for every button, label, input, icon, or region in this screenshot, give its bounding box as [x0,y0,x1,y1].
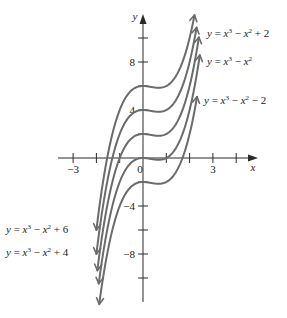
x-tick-label: 0 [137,163,143,175]
curves [94,15,203,304]
axes: −30384−4−8yx [58,10,258,302]
label-curve-plus6: y = x3 − x2 + 6 [5,223,69,235]
plot-area: −30384−4−8yx y = x3 − x2 + 2y = x3 − x2​… [0,0,287,318]
y-tick-label: −4 [123,200,135,212]
y-axis-arrow-icon [140,14,147,24]
y-tick-label: −8 [123,248,135,260]
y-tick-label: 8 [130,56,136,68]
curve-labels: y = x3 − x2 + 2y = x3 − x2​y = x3 − x2 −… [5,27,269,258]
label-curve-plus4: y = x3 − x2 + 4 [5,246,69,258]
cubic-family-graph: −30384−4−8yx y = x3 − x2 + 2y = x3 − x2​… [0,0,287,318]
x-axis-label: x [250,161,256,173]
x-tick-label: 3 [210,163,216,175]
label-curve-minus2: y = x3 − x2 − 2 [203,94,266,106]
label-curve-plus2: y = x3 − x2 + 2 [206,27,269,39]
y-axis-label: y [132,10,138,22]
x-tick-label: −3 [67,163,79,175]
label-curve-zero: y = x3 − x2​ [206,55,253,67]
curve-plus0 [99,55,200,284]
curve-plus6 [96,15,194,230]
